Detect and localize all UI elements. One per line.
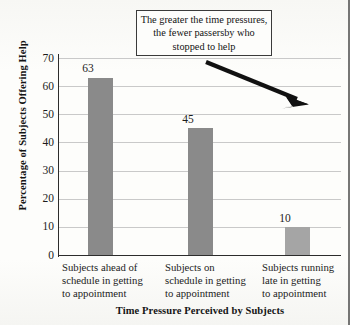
category-label-3-line-2: late in getting	[262, 274, 361, 287]
bar-value-label-2: 45	[168, 113, 208, 125]
annotation-line-2: the fewer passersby who	[153, 26, 255, 39]
y-axis-line	[58, 54, 59, 257]
y-axis-title: Percentage of Subjects Offering Help	[17, 26, 28, 226]
category-label-3-line-3: to appointment	[262, 287, 361, 300]
category-label-2-line-1: Subjects on	[165, 261, 275, 274]
y-tick-20: 20	[28, 193, 54, 204]
x-axis-line	[58, 255, 341, 256]
annotation-callout-box: The greater the time pressures, the fewe…	[136, 10, 272, 56]
y-tick-60: 60	[28, 81, 54, 92]
scan-page-margin	[350, 0, 361, 325]
y-tick-10: 10	[28, 221, 54, 232]
y-tick-50: 50	[28, 109, 54, 120]
bar-subjects-on-schedule	[188, 128, 213, 255]
y-tick-30: 30	[28, 165, 54, 176]
bar-value-label-1: 63	[68, 62, 108, 74]
bar-subjects-ahead-of-schedule	[88, 78, 113, 255]
y-tick-70: 70	[28, 53, 54, 64]
category-label-3-line-1: Subjects running	[262, 261, 361, 274]
bar-value-label-3: 10	[265, 212, 305, 224]
annotation-line-3: stopped to help	[173, 40, 236, 53]
y-tick-40: 40	[28, 137, 54, 148]
category-label-3: Subjects running late in getting to appo…	[262, 261, 361, 301]
figure-container: 63 45 10 70 60 50 40 30 20 10 0 Percenta…	[0, 0, 361, 325]
gridline-70	[59, 58, 341, 59]
category-label-1-line-1: Subjects ahead of	[62, 261, 172, 274]
plot-area	[59, 58, 341, 255]
bar-subjects-running-late	[285, 227, 310, 255]
y-tick-0: 0	[28, 250, 54, 261]
category-label-2: Subjects on schedule in getting to appoi…	[165, 261, 275, 301]
category-label-1-line-3: to appointment	[62, 287, 172, 300]
category-label-2-line-2: schedule in getting	[165, 274, 275, 287]
x-axis-title: Time Pressure Perceived by Subjects	[59, 305, 341, 316]
annotation-line-1: The greater the time pressures,	[141, 13, 268, 26]
y-axis-tick-labels: 70 60 50 40 30 20 10 0	[26, 0, 54, 325]
category-label-1-line-2: schedule in getting	[62, 274, 172, 287]
category-label-1: Subjects ahead of schedule in getting to…	[62, 261, 172, 301]
category-label-2-line-3: to appointment	[165, 287, 275, 300]
